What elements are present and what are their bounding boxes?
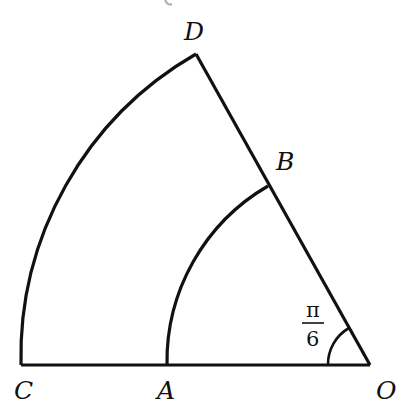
outer-arc-cd <box>21 54 196 365</box>
label-a: A <box>155 376 175 405</box>
label-o: O <box>376 376 397 405</box>
angle-label-numerator: π <box>306 298 320 322</box>
label-d: D <box>183 17 204 46</box>
angle-arc-o <box>328 328 349 365</box>
segment-od <box>196 54 370 365</box>
angle-label-denominator: 6 <box>306 327 319 351</box>
cropped-text-fragment <box>165 0 172 5</box>
sector-diagram: D B C A O π 6 <box>0 0 409 409</box>
label-c: C <box>14 376 33 405</box>
inner-arc-ab <box>167 186 268 365</box>
label-b: B <box>275 147 294 176</box>
